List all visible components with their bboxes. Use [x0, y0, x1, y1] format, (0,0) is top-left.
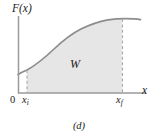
figure-caption: (d) [0, 120, 158, 131]
origin-label: 0 [10, 95, 15, 106]
y-axis-label: F(x) [12, 3, 32, 15]
x-axis-label: x [142, 85, 147, 97]
work-region-label: W [70, 58, 80, 70]
x-initial-tick-label: xi [22, 95, 29, 106]
work-shaded-region [27, 19, 122, 93]
x-final-subscript: f [121, 98, 123, 107]
x-final-tick-label: xf [116, 95, 123, 106]
work-area-under-force-curve-figure: F(x) x 0 xi xf W (d) [0, 0, 158, 139]
x-initial-subscript: i [27, 98, 29, 107]
